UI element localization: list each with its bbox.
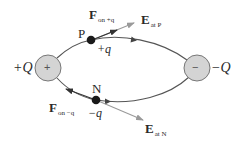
field-symbol: E xyxy=(145,121,154,136)
field-vector-at-n xyxy=(96,100,143,120)
positive-charge-label: +Q xyxy=(13,61,33,75)
electric-field-diagram: + − +Q −Q P +q Fon +q Eat P N −q Fon −q … xyxy=(0,0,237,151)
negative-charge-label: −Q xyxy=(211,61,231,75)
point-p-label: P xyxy=(78,27,85,40)
point-n-label: N xyxy=(92,82,101,95)
force-symbol: F xyxy=(89,7,97,22)
force-symbol: F xyxy=(49,100,57,115)
diagram-canvas xyxy=(0,0,237,151)
field-line-lower xyxy=(57,77,189,102)
field-line-direction-arrow-icon xyxy=(105,99,111,105)
force-vector-on-positive-q xyxy=(92,30,117,40)
test-charge-n xyxy=(92,96,101,105)
field-at-p-label: Eat P xyxy=(141,13,161,29)
positive-test-charge-label: +q xyxy=(97,43,111,55)
field-subscript: at P xyxy=(151,21,162,29)
field-at-n-label: Eat N xyxy=(145,122,167,138)
negative-charge-symbol: − xyxy=(192,62,198,73)
field-line-direction-arrow-icon xyxy=(131,37,138,44)
test-charge-p xyxy=(87,36,96,45)
positive-charge-symbol: + xyxy=(44,62,50,73)
negative-test-charge-label: −q xyxy=(88,107,102,119)
field-subscript: at N xyxy=(155,130,167,138)
force-on-positive-q-label: Fon +q xyxy=(89,8,114,24)
field-line-upper xyxy=(57,37,187,60)
force-on-negative-q-label: Fon −q xyxy=(49,101,74,117)
force-subscript: on −q xyxy=(58,109,74,117)
field-symbol: E xyxy=(141,12,150,27)
force-subscript: on +q xyxy=(98,16,114,24)
